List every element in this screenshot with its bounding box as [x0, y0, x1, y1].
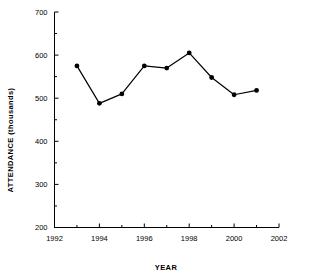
- data-point-marker: [209, 75, 214, 80]
- data-point-marker: [254, 88, 259, 93]
- y-tick-label: 300: [35, 180, 48, 189]
- y-tick-label: 400: [35, 137, 48, 146]
- data-point-marker: [232, 92, 237, 97]
- y-tick-label: 200: [35, 223, 48, 232]
- data-point-marker: [142, 63, 147, 68]
- data-point-marker: [187, 51, 192, 56]
- x-tick-label: 1992: [46, 234, 63, 243]
- x-tick-label: 2000: [226, 234, 243, 243]
- x-tick-label: 1994: [91, 234, 108, 243]
- x-tick-label: 1996: [136, 234, 153, 243]
- data-point-marker: [164, 66, 169, 71]
- chart-plot-area: 200300400500600700 199219941996199820002…: [0, 0, 318, 280]
- x-tick-label: 1998: [181, 234, 198, 243]
- x-tick-label: 2002: [271, 234, 288, 243]
- data-point-marker: [119, 91, 124, 96]
- data-point-marker: [75, 63, 80, 68]
- x-axis-title: YEAR: [155, 263, 178, 272]
- y-axis-title: ATTENDANCE (thousands): [6, 87, 15, 192]
- y-tick-label: 500: [35, 94, 48, 103]
- y-tick-label: 600: [35, 51, 48, 60]
- data-point-marker: [97, 101, 102, 106]
- y-tick-label: 700: [35, 8, 48, 17]
- attendance-line-chart: 200300400500600700 199219941996199820002…: [0, 0, 318, 280]
